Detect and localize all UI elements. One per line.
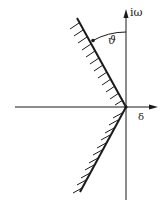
origin-point	[124, 105, 127, 108]
arrow-up-icon	[124, 9, 129, 18]
upper-boundary-line	[70, 18, 126, 107]
real-axis-label: δ	[138, 112, 144, 122]
horizontal-axis	[15, 105, 158, 110]
lower-boundary-line	[73, 107, 126, 193]
stability-sector-diagram	[0, 0, 165, 203]
angle-label: ϑ	[108, 35, 116, 46]
arrow-right-icon	[149, 105, 158, 110]
arc-endpoint-dot	[91, 39, 95, 43]
lower-hatching	[73, 113, 122, 193]
imaginary-axis-label: iω	[130, 7, 143, 18]
